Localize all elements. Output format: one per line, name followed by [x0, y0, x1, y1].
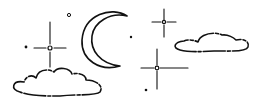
- sparkle-star-icon: [34, 22, 66, 67]
- night-sky-illustration: [0, 0, 265, 108]
- sparkle-star-icon: [141, 49, 188, 89]
- cloud-icon: [14, 68, 101, 96]
- dot-star-icon: [25, 46, 28, 49]
- dot-star-icon: [130, 36, 132, 38]
- cloud-icon: [175, 33, 248, 51]
- dot-star-icon: [67, 13, 70, 16]
- crescent-moon-icon: [82, 12, 127, 68]
- dot-star-icon: [145, 89, 148, 92]
- sparkle-star-icon: [152, 9, 176, 37]
